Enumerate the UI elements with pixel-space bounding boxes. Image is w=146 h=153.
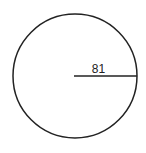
radius-label: 81 [92, 62, 106, 76]
circle-diagram: 81 [0, 0, 146, 153]
